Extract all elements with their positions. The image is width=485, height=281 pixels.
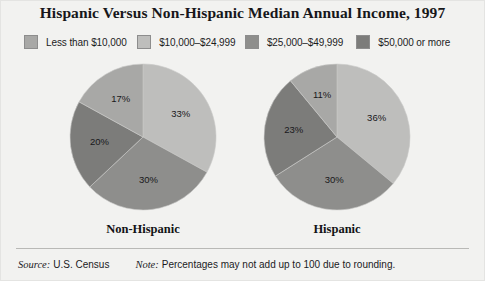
legend-swatch-icon [245,35,259,49]
pie-slice-label: 30% [325,174,345,185]
source-value: U.S. Census [53,259,109,270]
chart-legend: Less than $10,000 $10,000–$24,999 $25,00… [24,33,464,51]
pie-svg: 33%30%20%17% [68,62,218,212]
legend-item-label: $50,000 or more [378,37,450,48]
pie-chart-non-hispanic: 33%30%20%17% [68,62,218,212]
pie-slice-label: 11% [313,89,332,100]
footer-note: Source: U.S. Census Note: Percentages ma… [18,256,468,272]
pie-caption-non-hispanic: Non-Hispanic [68,222,218,237]
page-title: Hispanic Versus Non-Hispanic Median Annu… [0,4,485,22]
legend-item-label: $25,000–$49,999 [267,37,343,48]
legend-item[interactable]: $10,000–$24,999 [137,33,245,51]
pie-slice-label: 17% [111,93,131,104]
legend-swatch-icon [24,35,38,49]
pie-slice-label: 20% [90,136,110,147]
note-label: Note: [135,259,158,270]
pie-slice-label: 36% [367,112,387,123]
pie-slice-label: 30% [139,174,159,185]
pie-slices [264,64,410,210]
legend-item[interactable]: $50,000 or more [356,33,464,51]
legend-item[interactable]: $25,000–$49,999 [245,33,356,51]
pie-caption-hispanic: Hispanic [262,222,412,237]
footer-divider [16,248,469,249]
legend-item-label: $10,000–$24,999 [159,37,235,48]
legend-item-label: Less than $10,000 [46,37,127,48]
pie-slice-label: 23% [284,124,304,135]
legend-item[interactable]: Less than $10,000 [24,33,137,51]
pie-chart-hispanic: 36%30%23%11% [262,62,412,212]
source-label: Source: [18,259,50,270]
pie-slice-label: 33% [171,108,191,119]
legend-swatch-icon [137,35,151,49]
pie-svg: 36%30%23%11% [262,62,412,212]
chart-figure: Hispanic Versus Non-Hispanic Median Annu… [0,0,485,281]
note-value: Percentages may not add up to 100 due to… [162,259,396,270]
legend-swatch-icon [356,35,370,49]
